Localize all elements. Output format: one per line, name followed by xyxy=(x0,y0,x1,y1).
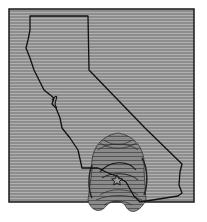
california-map xyxy=(0,0,207,222)
